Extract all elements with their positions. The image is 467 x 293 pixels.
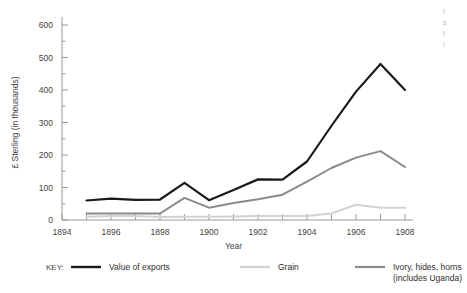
x-tick-label: 1906 (347, 227, 366, 237)
legend-label-grain: Grain (278, 262, 299, 272)
y-tick-label: 600 (39, 20, 53, 30)
margin-text-line-4: l (443, 39, 467, 50)
line-chart: 0100200300400500600189418961898190019021… (0, 0, 467, 293)
y-tick-label: 500 (39, 53, 53, 63)
x-tick-label: 1898 (151, 227, 170, 237)
series-line-0 (87, 64, 406, 201)
x-tick-label: 1896 (102, 227, 121, 237)
legend-label-ivory-hides-horns-sub: (includes Uganda) (393, 273, 462, 283)
y-tick-label: 0 (48, 215, 53, 225)
margin-text-line-1: t (443, 6, 467, 17)
x-tick-label: 1894 (53, 227, 72, 237)
x-tick-label: 1904 (298, 227, 317, 237)
margin-text-line-3: i (443, 28, 467, 39)
y-tick-label: 400 (39, 85, 53, 95)
margin-text-line-2: s (443, 17, 467, 28)
y-axis-title: £ Sterling (in thousands) (10, 76, 20, 168)
x-tick-label: 1908 (396, 227, 415, 237)
x-tick-label: 1902 (249, 227, 268, 237)
series-line-1 (87, 205, 406, 217)
legend-label-ivory-hides-horns: Ivory, hides, horns (393, 262, 462, 272)
y-tick-label: 300 (39, 118, 53, 128)
x-axis-title: Year (225, 241, 242, 251)
cut-off-margin-text: t s i l (443, 6, 467, 50)
x-tick-label: 1900 (200, 227, 219, 237)
chart-container: 0100200300400500600189418961898190019021… (0, 0, 467, 293)
legend-key-label: KEY: (46, 263, 64, 272)
y-tick-label: 200 (39, 150, 53, 160)
legend-label-value-of-exports: Value of exports (109, 262, 170, 272)
y-tick-label: 100 (39, 183, 53, 193)
